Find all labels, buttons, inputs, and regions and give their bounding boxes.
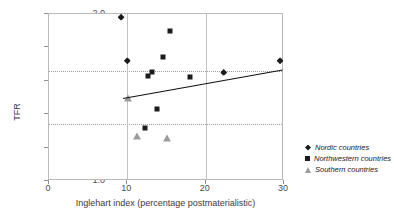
- gridline-horizontal: [49, 71, 282, 72]
- square-marker-icon: [305, 156, 310, 161]
- gridline-horizontal: [49, 124, 282, 125]
- scatter-chart: TFR Inglehart index (percentage postmate…: [0, 0, 394, 224]
- data-point-triangle: [163, 134, 171, 141]
- legend-item: Nordic countries: [305, 142, 391, 153]
- data-point-square: [155, 107, 160, 112]
- legend-label: Northwestern countries: [314, 153, 391, 164]
- x-tick-label: 30: [278, 183, 288, 193]
- x-tick-mark: [283, 180, 284, 184]
- chart-legend: Nordic countriesNorthwestern countriesSo…: [305, 142, 391, 175]
- x-tick-label: 10: [121, 183, 131, 193]
- legend-item: Northwestern countries: [305, 153, 391, 164]
- data-point-diamond: [277, 57, 284, 64]
- data-point-square: [150, 70, 155, 75]
- data-point-triangle: [133, 132, 141, 139]
- plot-area: [48, 13, 283, 180]
- x-tick-mark: [205, 180, 206, 184]
- legend-item: Southern countries: [305, 164, 391, 175]
- legend-label: Nordic countries: [315, 142, 369, 153]
- gridline-vertical: [206, 14, 207, 179]
- data-point-diamond: [118, 14, 125, 21]
- x-axis-title: Inglehart index (percentage postmaterial…: [48, 198, 283, 208]
- x-tick-mark: [48, 180, 49, 184]
- x-tick-label: 0: [45, 183, 50, 193]
- data-point-square: [143, 125, 148, 130]
- x-tick-label: 20: [200, 183, 210, 193]
- triangle-marker-icon: [305, 167, 311, 173]
- diamond-marker-icon: [305, 145, 311, 151]
- data-point-square: [168, 28, 173, 33]
- legend-label: Southern countries: [315, 164, 378, 175]
- x-tick-mark: [126, 180, 127, 184]
- data-point-square: [188, 75, 193, 80]
- data-point-square: [161, 55, 166, 60]
- data-point-diamond: [124, 57, 131, 64]
- y-axis-title: TFR: [12, 103, 22, 121]
